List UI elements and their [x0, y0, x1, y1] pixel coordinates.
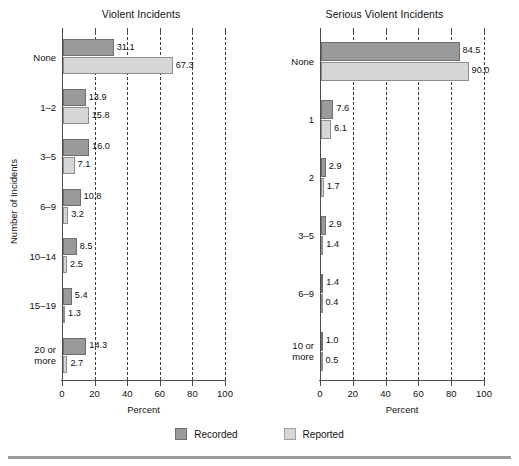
- gridline-60: [418, 32, 419, 380]
- x-tick-label-100: 100: [476, 388, 492, 399]
- x-tick-80: [192, 380, 193, 386]
- category-label-left-1: 1–2: [0, 101, 56, 112]
- bar-value-right-recorded-3: 2.9: [329, 219, 342, 229]
- bar-right-reported-5: [321, 352, 323, 371]
- gridline-20: [95, 32, 96, 380]
- x-tick-label-20: 20: [89, 388, 100, 399]
- bar-value-left-recorded-5: 5.4: [75, 290, 88, 300]
- bar-right-reported-1: [321, 120, 331, 139]
- top-tick-20: [95, 28, 96, 35]
- x-tick-label-20: 20: [348, 388, 359, 399]
- bottom-divider: [8, 456, 511, 459]
- gridline-100: [484, 32, 485, 380]
- x-tick-20: [353, 380, 354, 386]
- x-tick-label-80: 80: [446, 388, 457, 399]
- category-label-left-0: None: [0, 51, 56, 62]
- x-tick-label-0: 0: [317, 388, 322, 399]
- category-label-left-4: 10–14: [0, 250, 56, 261]
- bar-right-recorded-0: [321, 42, 460, 61]
- bar-right-recorded-1: [321, 100, 333, 119]
- bar-value-right-recorded-0: 84.5: [463, 45, 481, 55]
- bar-left-recorded-3: [63, 189, 81, 206]
- bar-value-left-recorded-4: 8.5: [80, 241, 93, 251]
- bar-value-left-reported-5: 1.3: [68, 308, 81, 318]
- legend-swatch-recorded-icon: [175, 428, 187, 440]
- top-tick-0: [62, 28, 63, 35]
- x-tick-60: [160, 380, 161, 386]
- bar-right-recorded-3: [321, 216, 326, 235]
- category-label-right-2: 2: [254, 172, 314, 183]
- bar-left-recorded-1: [63, 89, 86, 106]
- y-axis-line-right: [320, 32, 321, 380]
- bar-value-left-recorded-3: 10.8: [84, 191, 102, 201]
- x-axis-line-left: [61, 380, 226, 381]
- bar-left-reported-6: [63, 356, 67, 373]
- gridline-40: [127, 32, 128, 380]
- top-tick-100: [484, 28, 485, 35]
- chart-panel-serious-violent-incidents: Serious Violent Incidents Percent 020406…: [258, 0, 519, 425]
- bar-left-reported-2: [63, 157, 75, 174]
- category-label-left-3: 6–9: [0, 201, 56, 212]
- x-tick-label-100: 100: [217, 388, 233, 399]
- bar-value-right-reported-4: 0.4: [326, 297, 339, 307]
- top-tick-40: [127, 28, 128, 35]
- top-tick-100: [225, 28, 226, 35]
- bar-value-right-reported-0: 90.0: [472, 65, 490, 75]
- bar-right-reported-3: [321, 236, 323, 255]
- x-tick-100: [484, 380, 485, 386]
- bar-value-left-reported-0: 67.3: [176, 60, 194, 70]
- gridline-80: [192, 32, 193, 380]
- category-label-left-5: 15–19: [0, 300, 56, 311]
- gridline-80: [451, 32, 452, 380]
- bar-left-reported-5: [63, 306, 65, 323]
- gridline-60: [160, 32, 161, 380]
- bar-left-recorded-4: [63, 238, 77, 255]
- bar-value-right-reported-2: 1.7: [327, 181, 340, 191]
- category-label-right-4: 6–9: [254, 288, 314, 299]
- gridline-20: [353, 32, 354, 380]
- bar-value-left-recorded-2: 16.0: [92, 141, 110, 151]
- bar-value-left-reported-3: 3.2: [71, 209, 84, 219]
- x-tick-40: [127, 380, 128, 386]
- x-axis-label-left: Percent: [62, 404, 225, 415]
- bar-left-recorded-2: [63, 139, 89, 156]
- gridline-100: [225, 32, 226, 380]
- category-label-left-6: 20 or more: [0, 344, 56, 366]
- category-label-right-1: 1: [254, 114, 314, 125]
- bar-left-reported-4: [63, 256, 67, 273]
- bar-left-recorded-6: [63, 338, 86, 355]
- x-axis-line-right: [319, 380, 485, 381]
- legend-label-recorded: Recorded: [194, 429, 237, 440]
- x-tick-20: [95, 380, 96, 386]
- bar-left-reported-1: [63, 107, 89, 124]
- bar-right-recorded-5: [321, 332, 323, 351]
- top-tick-60: [160, 28, 161, 35]
- figure-container: Violent Incidents Number of Incidents Pe…: [0, 0, 519, 466]
- bar-value-left-reported-6: 2.7: [70, 358, 83, 368]
- bar-left-recorded-0: [63, 39, 114, 56]
- x-tick-0: [320, 380, 321, 386]
- bar-value-right-recorded-1: 7.6: [336, 103, 349, 113]
- bar-value-right-reported-5: 0.5: [326, 355, 339, 365]
- legend-item-reported: Reported: [284, 428, 344, 440]
- bar-right-recorded-4: [321, 274, 323, 293]
- bar-value-right-reported-1: 6.1: [334, 123, 347, 133]
- x-tick-label-60: 60: [155, 388, 166, 399]
- chart-legend: Recorded Reported: [0, 428, 519, 440]
- x-tick-40: [386, 380, 387, 386]
- bar-right-reported-0: [321, 62, 469, 81]
- bar-value-left-recorded-0: 31.1: [117, 42, 135, 52]
- gridline-40: [386, 32, 387, 380]
- top-tick-80: [451, 28, 452, 35]
- chart-title-right: Serious Violent Incidents: [258, 8, 519, 20]
- bar-value-left-recorded-1: 13.9: [89, 92, 107, 102]
- x-tick-label-40: 40: [122, 388, 133, 399]
- bar-left-reported-3: [63, 207, 68, 224]
- x-tick-0: [62, 380, 63, 386]
- top-tick-0: [320, 28, 321, 35]
- bar-value-left-recorded-6: 14.3: [89, 340, 107, 350]
- bar-right-reported-4: [321, 294, 323, 313]
- category-label-right-3: 3–5: [254, 230, 314, 241]
- x-tick-80: [451, 380, 452, 386]
- bar-value-right-recorded-4: 1.4: [326, 277, 339, 287]
